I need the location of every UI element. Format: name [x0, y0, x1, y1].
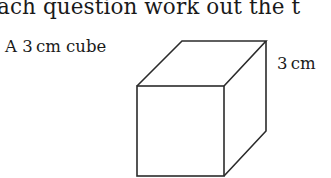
cube-top-face [137, 41, 266, 86]
cube-diagram [0, 0, 331, 178]
cube-edge-length-label: 3 cm [277, 54, 316, 73]
cube-right-face [224, 41, 266, 176]
cube-front-face [137, 86, 224, 176]
